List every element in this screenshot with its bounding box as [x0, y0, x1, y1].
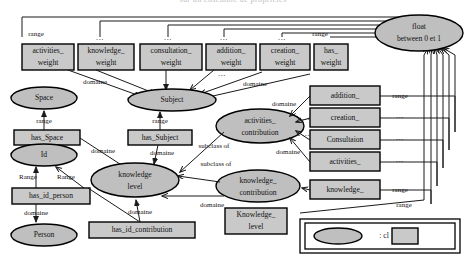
node-float-line1: float: [412, 22, 427, 31]
edge-label-domaine-weight-subject: domaine: [83, 78, 107, 86]
weight-box-consultation[interactable]: consultation_ weight ...: [140, 33, 202, 70]
node-activities-contribution-line1: activities_: [244, 116, 275, 125]
weight-box-creation-line2: weight: [275, 58, 297, 67]
node-activities-contribution-line2: contribution: [241, 128, 278, 137]
right-box-addition[interactable]: addition_ range: [310, 86, 408, 105]
edge-label-range-knowledge-level-box: range: [396, 201, 412, 209]
edge-label-dots-consultaion: ...: [396, 133, 404, 142]
box-has-id-person-label: has_id_person: [29, 191, 73, 200]
ontology-diagram: float between 0 et 1 activities_ weight …: [0, 0, 466, 260]
edge-label-range-addition: range: [392, 92, 408, 100]
node-float-line2: between 0 et 1: [397, 34, 441, 43]
edge-label-domaine-weight-subject-2: domaine: [243, 80, 267, 88]
weight-box-consultation-line2: weight: [161, 58, 183, 67]
box-has-space-label: has_Space: [31, 133, 64, 142]
edge-label-domaine-has-id-contribution: domaine: [128, 208, 152, 216]
right-box-knowledge[interactable]: knowledge_ range: [310, 180, 408, 199]
weight-box-knowledge-line1: knowledge_: [87, 46, 124, 55]
edge-has-subject-range: range: [152, 112, 168, 130]
weight-box-activities-line1: activities_: [32, 46, 63, 55]
edge-label-range-id-1: Range: [19, 173, 37, 181]
edge-label-dots-activities-1: ...: [302, 113, 310, 122]
edges-id-range: Range Range: [19, 167, 84, 188]
edge-label-domaine-has-subject: domaine: [150, 149, 174, 157]
edge-label-dots-creation-right: ...: [396, 111, 404, 120]
node-subject[interactable]: Subject: [128, 89, 216, 111]
edge-label-dots-activities-right: ...: [396, 155, 404, 164]
box-knowledge-level[interactable]: Knowledge_ level: [225, 208, 287, 234]
box-has-id-person[interactable]: has_id_person: [12, 188, 90, 204]
node-knowledge-contribution-line1: knowledge_: [239, 176, 276, 185]
weight-box-has-weight[interactable]: has_ weight range: [312, 30, 348, 70]
right-box-consultaion-label: Consultaion: [327, 135, 364, 144]
edge-label-range-has-space: range: [36, 117, 52, 125]
legend-label: : cl: [379, 231, 389, 240]
edge-label-range-has-weight: range: [312, 30, 328, 38]
weight-box-addition-line2: weight: [221, 58, 243, 67]
node-id-label: Id: [41, 150, 48, 159]
edge-has-subject-domaine: domaine: [150, 145, 174, 164]
box-has-id-contribution-label: has_id_contribution: [112, 225, 173, 234]
edge-label-dots-creation: ...: [278, 33, 286, 42]
edge-label-domaine-knowledge-contrib: domaine: [200, 201, 224, 209]
edge-has-space-range: range: [36, 111, 52, 130]
edge-label-range-has-subject: range: [152, 117, 168, 125]
box-has-subject[interactable]: has_Subject: [128, 130, 192, 145]
right-box-creation-label: creation_: [331, 113, 359, 122]
weight-box-has-weight-line2: weight: [321, 58, 343, 67]
weight-box-creation-line1: creation_: [271, 46, 299, 55]
node-knowledge-level[interactable]: knowledge level: [91, 163, 179, 197]
node-knowledge-contribution-line2: contribution: [239, 188, 276, 197]
node-float[interactable]: float between 0 et 1: [375, 15, 463, 51]
weight-box-creation[interactable]: creation_ weight ...: [260, 33, 310, 70]
top-range-bus: [22, 17, 412, 37]
box-knowledge-level-line1: Knowledge_: [237, 210, 276, 219]
box-has-space[interactable]: has_Space: [14, 130, 80, 145]
cut-off-caption-top: sur un ensemble de propriétés: [0, 0, 466, 9]
weight-box-addition[interactable]: addition_ weight ...: [206, 33, 256, 70]
weight-box-knowledge[interactable]: knowledge_ weight ...: [78, 33, 134, 70]
box-has-subject-label: has_Subject: [142, 133, 180, 142]
edge-label-range-id-2: Range: [57, 173, 75, 181]
node-space-label: Space: [35, 93, 54, 102]
edge-label-dots-addition: ...: [220, 33, 228, 42]
edge-label-domaine-has-space: domaine: [91, 147, 115, 155]
edge-label-dots-subject: ...: [218, 69, 226, 78]
edge-label-domaine-has-id-person: domaine: [24, 209, 48, 217]
node-activities-contribution[interactable]: activities_ contribution: [216, 109, 304, 143]
node-id[interactable]: Id: [11, 144, 77, 166]
legend-rect-symbol: [392, 228, 418, 244]
weight-box-consultation-line1: consultation_: [151, 46, 192, 55]
node-knowledge-level-line2: level: [128, 182, 143, 191]
edge-label-range-knowledge: range: [392, 186, 408, 194]
edge-label-domaine-activities-2: domaine: [276, 148, 300, 156]
weight-box-activities-line2: weight: [38, 58, 60, 67]
weight-box-knowledge-line2: weight: [96, 58, 118, 67]
edge-label-subclass-activities: subclass of: [199, 142, 231, 150]
node-knowledge-contribution[interactable]: knowledge_ contribution: [216, 170, 300, 202]
right-box-addition-label: addition_: [331, 91, 360, 100]
edge-label-domaine-activities-1: domaine: [272, 100, 296, 108]
edge-label-dots-consultation: ...: [164, 33, 172, 42]
right-box-knowledge-label: knowledge_: [326, 185, 363, 194]
right-box-activities-label: activities_: [329, 157, 360, 166]
cut-off-caption-text: sur un ensemble de propriétés: [0, 0, 466, 4]
weight-box-has-weight-line1: has_: [324, 46, 338, 55]
edge-label-range-activities: range: [28, 30, 44, 38]
legend: : cl: [300, 219, 460, 253]
edge-label-subclass-knowledge: subclass of: [201, 160, 233, 168]
box-has-id-contribution[interactable]: has_id_contribution: [89, 222, 195, 238]
figure-canvas: sur un ensemble de propriétés: [0, 0, 466, 260]
edge-label-dots-activities-2: ...: [302, 129, 310, 138]
edge-has-id-person-domaine: domaine: [24, 204, 48, 222]
node-space[interactable]: Space: [11, 87, 77, 109]
edge-label-dots-knowledge: ...: [96, 33, 104, 42]
weight-box-activities[interactable]: activities_ weight range: [22, 30, 74, 70]
legend-ellipse-symbol: [314, 228, 362, 244]
node-person-label: Person: [34, 230, 55, 239]
node-person[interactable]: Person: [11, 224, 77, 246]
node-subject-label: Subject: [161, 95, 185, 104]
weight-box-addition-line1: addition_: [217, 46, 246, 55]
node-knowledge-level-line1: knowledge: [118, 170, 152, 179]
box-knowledge-level-line2: level: [249, 222, 264, 231]
